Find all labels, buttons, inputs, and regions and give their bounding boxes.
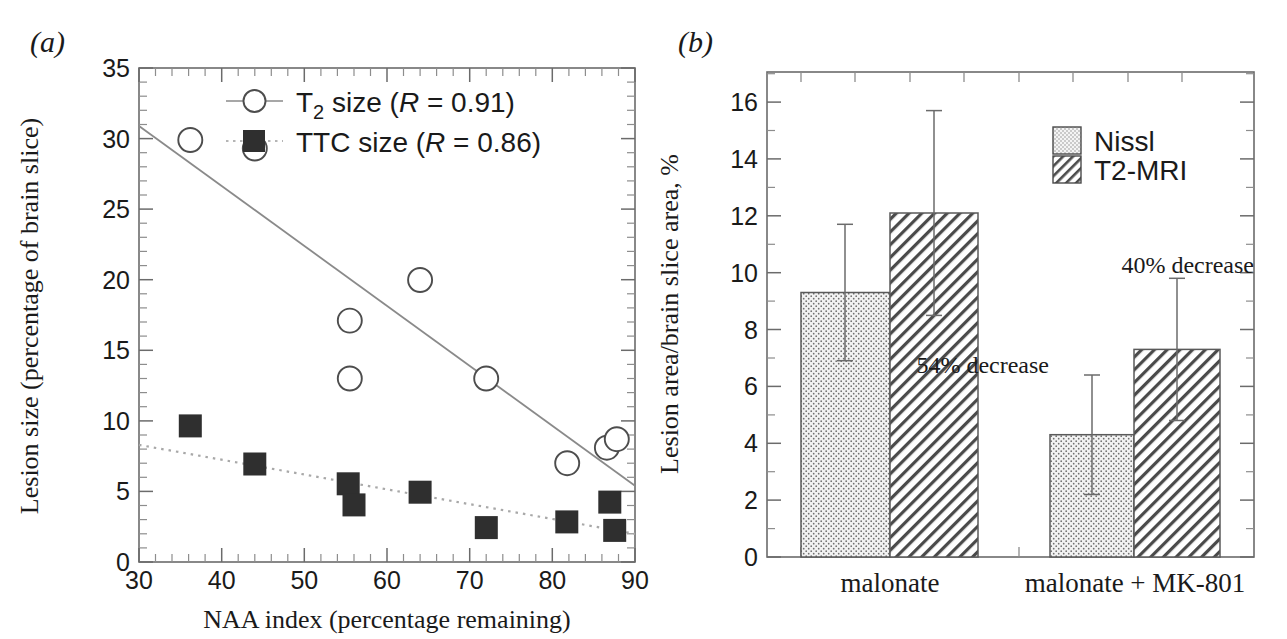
legend-marker-ttc — [243, 130, 265, 152]
panel-b: (b) Lesion area/brain slice area, % — [655, 25, 1254, 598]
data-point — [474, 367, 498, 391]
panel-a: (a) Lesion size (percentage of brain sli… — [15, 25, 649, 634]
x-tick-label: 90 — [621, 566, 649, 594]
figure-container: (a) Lesion size (percentage of brain sli… — [0, 0, 1287, 639]
y-tick-label: 12 — [730, 202, 758, 230]
panel-b-y-tick-labels: 0 2 4 6 8 10 12 14 16 — [730, 88, 758, 571]
legend-label-ttc: TTC size (R = 0.86) — [296, 127, 541, 158]
x-tick-label: 80 — [538, 566, 566, 594]
data-point — [179, 414, 202, 437]
ttc-data-points — [179, 414, 626, 542]
panel-a-legend: T2 size (R = 0.91) TTC size (R = 0.86) — [226, 87, 541, 158]
data-point — [555, 451, 579, 475]
bar-group-malonate — [801, 111, 978, 557]
panel-a-y-tick-labels: 35 30 25 20 15 10 5 0 — [102, 54, 130, 576]
data-point — [243, 453, 266, 476]
category-label: malonate + MK-801 — [1025, 568, 1246, 598]
y-tick-label: 20 — [102, 266, 130, 294]
x-tick-label: 60 — [373, 566, 401, 594]
legend-swatch-nissl — [1053, 127, 1081, 154]
x-tick-label: 70 — [456, 566, 484, 594]
y-tick-label: 25 — [102, 195, 130, 223]
data-point — [337, 472, 360, 495]
data-point — [338, 309, 362, 333]
y-tick-label: 4 — [744, 429, 758, 457]
y-tick-label: 30 — [102, 125, 130, 153]
panel-a-label: (a) — [30, 25, 65, 59]
data-point — [475, 516, 498, 539]
data-point — [409, 481, 432, 504]
y-tick-label: 16 — [730, 88, 758, 116]
y-tick-label: 15 — [102, 336, 130, 364]
data-point — [555, 510, 578, 533]
panel-b-category-labels: malonate malonate + MK-801 — [841, 568, 1246, 598]
t2-data-points — [178, 128, 629, 475]
y-tick-label: 10 — [730, 259, 758, 287]
bar-group-malonate-mk801 — [1050, 278, 1220, 557]
scientific-figure: (a) Lesion size (percentage of brain sli… — [0, 0, 1287, 639]
panel-b-label: (b) — [678, 25, 713, 59]
panel-a-y-axis-label: Lesion size (percentage of brain slice) — [15, 118, 44, 514]
legend-marker-t2 — [244, 90, 266, 112]
y-tick-label: 2 — [744, 486, 758, 514]
y-tick-label: 8 — [744, 316, 758, 344]
data-point — [408, 268, 432, 292]
data-point — [598, 491, 621, 514]
x-tick-label: 50 — [290, 566, 318, 594]
x-tick-label: 40 — [208, 566, 236, 594]
x-tick-label: 30 — [125, 566, 153, 594]
y-tick-label: 14 — [730, 145, 758, 173]
y-tick-label: 10 — [102, 407, 130, 435]
panel-a-x-axis-label: NAA index (percentage remaining) — [203, 605, 570, 634]
y-tick-label: 35 — [102, 54, 130, 82]
panel-b-y-axis-label: Lesion area/brain slice area, % — [655, 154, 684, 474]
legend-label-nissl: Nissl — [1094, 126, 1155, 157]
t2-regression-line — [139, 126, 635, 486]
annotation-40-decrease: 40% decrease — [1121, 252, 1254, 278]
panel-b-legend: Nissl T2-MRI — [1053, 126, 1187, 186]
y-tick-label: 6 — [744, 372, 758, 400]
data-point — [178, 128, 202, 152]
legend-label-t2mri: T2-MRI — [1094, 155, 1187, 186]
data-point — [338, 367, 362, 391]
annotation-54-decrease: 54% decrease — [916, 352, 1049, 378]
legend-swatch-t2mri — [1053, 156, 1081, 183]
data-point — [605, 427, 629, 451]
data-point — [343, 493, 366, 516]
legend-label-t2: T2 size (R = 0.91) — [296, 87, 515, 123]
panel-a-x-tick-labels: 30 40 50 60 70 80 90 — [125, 566, 649, 594]
data-point — [603, 519, 626, 542]
y-tick-label: 0 — [744, 543, 758, 571]
category-label: malonate — [841, 568, 940, 598]
y-tick-label: 5 — [116, 477, 130, 505]
